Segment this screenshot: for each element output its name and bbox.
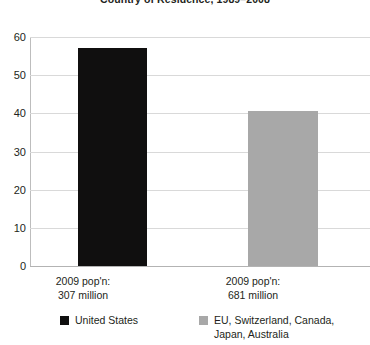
x-axis-category-label-0: 2009 pop'n: 307 million [8,275,158,302]
x-axis-category-label-1: 2009 pop'n: 681 million [178,275,328,302]
y-axis-tick-label-40: 40 [2,107,26,119]
y-axis-tick-label-10: 10 [2,222,26,234]
category-label-0-line-1: 2009 pop'n: [8,275,158,289]
y-axis-tick-label-0: 0 [2,260,26,272]
y-axis-tick-label-50: 50 [2,69,26,81]
x-axis-baseline [30,266,370,267]
y-axis-tick-label-60: 60 [2,31,26,43]
category-label-1-line-2: 681 million [178,289,328,303]
gridline-60 [30,37,370,38]
bar-united-states [78,48,147,266]
category-label-0-line-2: 307 million [8,289,158,303]
plot-area [30,37,370,266]
y-axis-tick-label-20: 20 [2,184,26,196]
legend-item-united-states: United States [60,313,138,327]
y-axis-tick-label-30: 30 [2,146,26,158]
legend-label-united-states: United States [75,313,138,327]
chart-title: Country of Residence, 1989–2008 [0,0,370,5]
legend-swatch-icon-eu-switzerland-canada-japan-australia [199,316,208,325]
bar-eu-switzerland-canada-japan-australia [248,111,318,266]
category-label-1-line-1: 2009 pop'n: [178,275,328,289]
chart-legend: United States EU, Switzerland, Canada, J… [0,313,370,345]
legend-swatch-icon-united-states [60,316,69,325]
legend-item-eu-switzerland-canada-japan-australia: EU, Switzerland, Canada, Japan, Australi… [199,313,334,341]
legend-label-eu-switzerland-canada-japan-australia: EU, Switzerland, Canada, Japan, Australi… [214,313,334,341]
